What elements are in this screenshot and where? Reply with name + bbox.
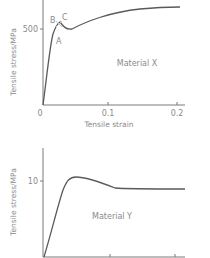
material-label: Material Y — [92, 212, 132, 221]
y-tick-label-10: 10 — [28, 177, 38, 186]
point-label-a: A — [56, 37, 62, 46]
x-axis-label: Tensile strain — [83, 120, 133, 129]
chart-material-x: 500 0 0.1 0.2 Tensile strain B C A Mater… — [0, 0, 210, 130]
y-axis-label: Tensile stress/MPa — [9, 28, 18, 97]
y-axis-label: Tensile stress/MPa — [9, 168, 18, 237]
chart-material-x-svg: 500 0 0.1 0.2 Tensile strain B C A Mater… — [0, 0, 210, 130]
x-tick-label-0-1: 0.1 — [102, 109, 115, 118]
chart-material-y: 10 Material Y Tensile stress/MPa — [0, 130, 210, 258]
x-tick-label-0: 0 — [37, 109, 42, 118]
point-label-c: C — [62, 13, 68, 22]
material-label: Material X — [117, 59, 158, 68]
x-tick-label-0-2: 0.2 — [171, 109, 184, 118]
chart-material-y-svg: 10 Material Y Tensile stress/MPa — [0, 130, 210, 258]
point-label-b: B — [50, 16, 56, 25]
y-tick-label-500: 500 — [23, 25, 38, 34]
